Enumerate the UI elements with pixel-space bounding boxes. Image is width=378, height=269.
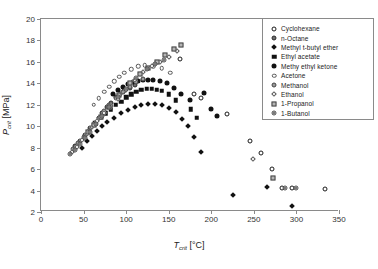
legend-item[interactable]: n-Octane (267, 33, 369, 42)
legend-item[interactable]: 1-Propanol (267, 99, 369, 108)
legend-marker-icon (267, 81, 281, 90)
data-point (153, 62, 158, 67)
data-point (139, 102, 145, 108)
x-tick-label: 50 (79, 215, 88, 224)
x-tick-label: 0 (39, 215, 43, 224)
legend-label: Acetone (281, 72, 306, 79)
data-point (94, 128, 100, 134)
y-tick-label: 10 (26, 122, 35, 131)
data-point (78, 142, 83, 147)
legend-marker-glyph (271, 45, 277, 51)
y-axis-unit-text: [MPa] (1, 95, 11, 119)
data-point (112, 79, 117, 84)
data-point (117, 75, 122, 80)
legend-label: Methanol (281, 82, 309, 89)
data-point (177, 56, 182, 61)
data-point (136, 64, 141, 69)
y-tick-label: 14 (26, 79, 35, 88)
legend-label: Ethyl acetate (281, 53, 320, 60)
legend-item[interactable]: 1-Butanol (267, 109, 369, 118)
data-point (165, 81, 170, 86)
data-point (179, 42, 184, 47)
data-point (145, 101, 151, 107)
data-point (144, 86, 149, 91)
y-tick-label: 8 (31, 143, 35, 152)
y-tick-label: 4 (31, 186, 35, 195)
legend-item[interactable]: Ethyl acetate (267, 52, 369, 61)
data-point (134, 90, 139, 95)
data-point (94, 122, 99, 127)
data-point (198, 149, 204, 155)
data-point (224, 112, 229, 117)
data-point (168, 70, 173, 75)
data-point (151, 78, 156, 83)
legend-label: Methy ethyl ketone (281, 63, 337, 70)
legend-marker-icon (267, 34, 281, 43)
y-tick-label: 2 (31, 208, 35, 217)
x-tick-label: 250 (247, 215, 260, 224)
data-point (248, 139, 253, 144)
x-tick-mark (211, 210, 212, 214)
data-point (282, 186, 287, 191)
y-axis-subscript: crit (6, 121, 12, 129)
data-point (289, 203, 295, 209)
data-point (294, 186, 299, 191)
legend-item[interactable]: Methanol (267, 80, 369, 89)
data-point (173, 98, 178, 103)
data-point (102, 90, 107, 95)
legend-marker-glyph (272, 26, 277, 31)
data-point (139, 88, 144, 93)
x-tick-mark (126, 210, 127, 214)
data-point (155, 88, 160, 93)
x-tick-mark (339, 210, 340, 214)
data-point (114, 103, 119, 108)
legend-item[interactable]: Acetone (267, 71, 369, 80)
y-axis-unit (1, 118, 11, 121)
data-point (99, 123, 105, 129)
legend-item[interactable]: Ethanol (267, 90, 369, 99)
legend-marker-icon (267, 71, 281, 80)
data-point (159, 102, 165, 108)
data-point (73, 147, 78, 152)
x-tick-label: 200 (205, 215, 218, 224)
x-tick-mark (84, 210, 85, 214)
data-point (322, 187, 327, 192)
legend-item[interactable]: Methyl t-butyl ether (267, 43, 369, 52)
data-point (67, 152, 72, 157)
data-point (83, 136, 88, 141)
data-point (201, 90, 206, 95)
data-point (209, 107, 214, 112)
x-tick-mark (254, 210, 255, 214)
data-point (250, 157, 256, 163)
data-point (129, 67, 134, 72)
data-point (134, 75, 139, 80)
data-point (118, 111, 124, 117)
legend-marker-glyph (272, 64, 277, 69)
legend-marker-glyph (272, 83, 277, 88)
legend-item[interactable]: Methy ethyl ketone (267, 62, 369, 71)
data-point (178, 92, 183, 97)
x-tick-label: 300 (290, 215, 303, 224)
x-tick-mark (296, 210, 297, 214)
data-point (160, 89, 165, 94)
data-point (258, 151, 263, 156)
data-point (132, 104, 138, 110)
y-tick-label: 12 (26, 100, 35, 109)
legend-item[interactable]: Cyclohexane (267, 24, 369, 33)
data-point (100, 113, 105, 118)
data-point (269, 167, 274, 172)
data-point (122, 70, 127, 75)
x-axis-title: Tcrit [°C] (173, 240, 204, 251)
legend-label: Methyl t-butyl ether (281, 44, 338, 51)
legend: Cyclohexanen-OctaneMethyl t-butyl etherE… (262, 18, 374, 120)
legend-marker-icon (267, 109, 281, 118)
x-tick-label: 350 (332, 215, 345, 224)
data-point (189, 107, 194, 112)
data-point (129, 92, 134, 97)
legend-label: n-Octane (281, 35, 309, 42)
data-point (166, 105, 172, 111)
critical-point-scatter-figure: 2468101214161820 050100150200250300350 P… (0, 0, 378, 269)
data-point (149, 86, 154, 91)
y-tick-label: 6 (31, 165, 35, 174)
legend-marker-icon (267, 52, 281, 61)
